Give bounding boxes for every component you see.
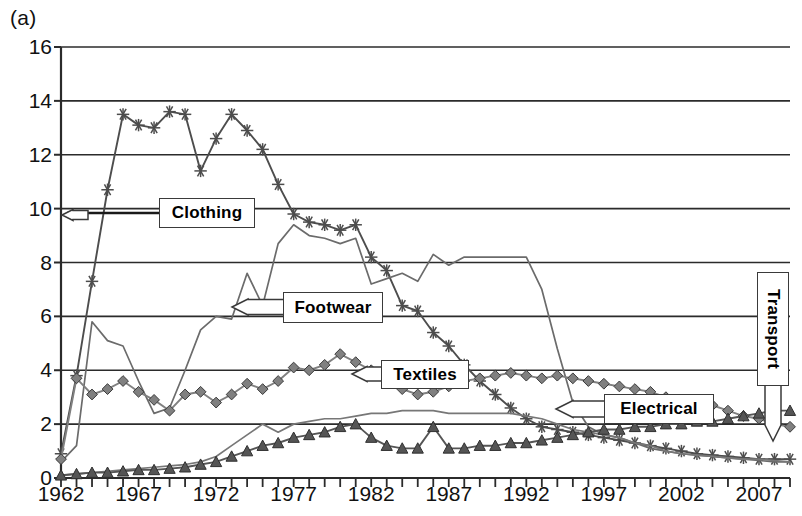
data-marker-triangle: [428, 421, 439, 431]
data-marker-diamond: [785, 421, 796, 432]
data-marker-diamond: [583, 376, 594, 387]
callout-arrow: [352, 367, 383, 382]
figure-panel: (a) 0246810121416 1962196719721977198219…: [0, 0, 802, 516]
data-marker-diamond: [490, 370, 501, 381]
series-callout-footwear[interactable]: Footwear: [283, 292, 383, 323]
data-marker-diamond: [412, 389, 423, 400]
series-callout-transport[interactable]: Transport: [757, 272, 789, 386]
data-marker-triangle: [381, 440, 392, 450]
data-marker-diamond: [598, 378, 609, 389]
data-marker-diamond: [614, 381, 625, 392]
data-marker-diamond: [474, 373, 485, 384]
data-marker-diamond: [505, 368, 516, 379]
series-callout-clothing[interactable]: Clothing: [159, 198, 255, 228]
callout-arrow: [556, 401, 606, 418]
data-marker-diamond: [304, 365, 315, 376]
data-marker-diamond: [102, 384, 113, 395]
chart-canvas: [0, 0, 802, 516]
data-marker-diamond: [257, 384, 268, 395]
callout-arrow: [765, 385, 782, 441]
callout-arrow: [232, 299, 285, 315]
data-marker-diamond: [536, 373, 547, 384]
data-marker-diamond: [629, 384, 640, 395]
data-marker-diamond: [350, 357, 361, 368]
data-marker-diamond: [56, 454, 67, 465]
data-marker-diamond: [552, 370, 563, 381]
data-marker-diamond: [567, 373, 578, 384]
callout-arrow: [62, 210, 88, 221]
data-marker-diamond: [521, 370, 532, 381]
series-callout-electrical[interactable]: Electrical: [604, 394, 714, 424]
series-callout-textiles[interactable]: Textiles: [381, 360, 469, 389]
